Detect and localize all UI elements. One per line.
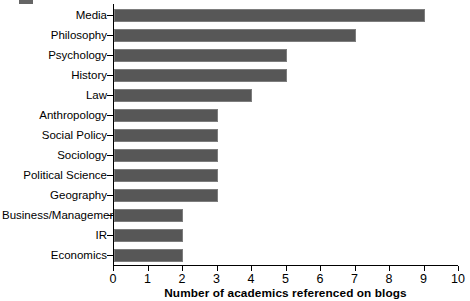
y-axis-label: Political Science bbox=[0, 169, 107, 182]
y-axis-label: Social Policy bbox=[0, 129, 107, 142]
y-axis-label: IR bbox=[0, 229, 107, 242]
y-axis-tick bbox=[107, 35, 113, 36]
bar bbox=[114, 149, 218, 162]
bar bbox=[114, 169, 218, 182]
x-axis-tick-label: 5 bbox=[271, 272, 301, 286]
x-axis-tick-label: 6 bbox=[305, 272, 335, 286]
y-axis-tick bbox=[107, 235, 113, 236]
y-axis-label-text: Political Science bbox=[2, 169, 107, 182]
y-axis-tick bbox=[107, 75, 113, 76]
y-axis-tick bbox=[107, 55, 113, 56]
x-axis-tick bbox=[389, 266, 390, 271]
bar bbox=[114, 89, 252, 102]
y-axis-label-text: Business/Management bbox=[2, 209, 107, 222]
y-axis-label-text: Economics bbox=[2, 249, 107, 262]
bar bbox=[114, 109, 218, 122]
bar bbox=[114, 189, 218, 202]
x-axis-tick-label: 9 bbox=[409, 272, 439, 286]
x-axis-tick-label: 10 bbox=[443, 272, 470, 286]
bar bbox=[114, 69, 287, 82]
x-axis-tick-label: 0 bbox=[98, 272, 128, 286]
y-axis-label: Geography bbox=[0, 189, 107, 202]
y-axis-label: Law bbox=[0, 89, 107, 102]
y-axis-label-text: Anthropology bbox=[2, 109, 107, 122]
y-axis-label-text: Media bbox=[2, 9, 107, 22]
y-axis-label: Economics bbox=[0, 249, 107, 262]
y-axis-label: Business/Management bbox=[0, 209, 107, 222]
y-axis-tick bbox=[107, 115, 113, 116]
x-axis-tick bbox=[424, 266, 425, 271]
y-axis-label: Anthropology bbox=[0, 109, 107, 122]
y-axis-tick bbox=[107, 195, 113, 196]
y-axis-tick bbox=[107, 15, 113, 16]
y-axis-label-text: Social Policy bbox=[2, 129, 107, 142]
x-axis-tick bbox=[286, 266, 287, 271]
x-axis-tick bbox=[217, 266, 218, 271]
x-axis-tick bbox=[320, 266, 321, 271]
x-axis-tick bbox=[113, 266, 114, 271]
x-axis-tick bbox=[251, 266, 252, 271]
y-axis-label-text: Psychology bbox=[2, 49, 107, 62]
y-axis-label: Media bbox=[0, 9, 107, 22]
y-axis-label: Psychology bbox=[0, 49, 107, 62]
y-axis-label-text: Philosophy bbox=[2, 29, 107, 42]
x-axis-tick bbox=[148, 266, 149, 271]
x-axis-tick bbox=[355, 266, 356, 271]
bar bbox=[114, 49, 287, 62]
x-axis-tick bbox=[182, 266, 183, 271]
x-axis-tick bbox=[458, 266, 459, 271]
x-axis-title: Number of academics referenced on blogs bbox=[113, 286, 458, 300]
bar bbox=[114, 29, 356, 42]
x-axis-tick-label: 1 bbox=[133, 272, 163, 286]
bar bbox=[114, 209, 183, 222]
bar bbox=[114, 9, 425, 22]
y-axis-tick bbox=[107, 95, 113, 96]
y-axis-label: Sociology bbox=[0, 149, 107, 162]
bar bbox=[114, 129, 218, 142]
y-axis-tick bbox=[107, 255, 113, 256]
x-axis-tick-label: 3 bbox=[202, 272, 232, 286]
y-axis-label-text: Geography bbox=[2, 189, 107, 202]
y-axis-label-text: History bbox=[2, 69, 107, 82]
y-axis-label: Philosophy bbox=[0, 29, 107, 42]
y-axis-tick bbox=[107, 135, 113, 136]
x-axis-tick-label: 2 bbox=[167, 272, 197, 286]
x-axis-tick-label: 4 bbox=[236, 272, 266, 286]
x-axis-tick-label: 7 bbox=[340, 272, 370, 286]
bar bbox=[114, 249, 183, 262]
y-axis-label-text: IR bbox=[2, 229, 107, 242]
y-axis-label: History bbox=[0, 69, 107, 82]
y-axis-label-text: Law bbox=[2, 89, 107, 102]
y-axis-label-text: Sociology bbox=[2, 149, 107, 162]
bar bbox=[114, 229, 183, 242]
y-axis-tick bbox=[107, 175, 113, 176]
y-axis-tick bbox=[107, 155, 113, 156]
x-axis-tick-label: 8 bbox=[374, 272, 404, 286]
